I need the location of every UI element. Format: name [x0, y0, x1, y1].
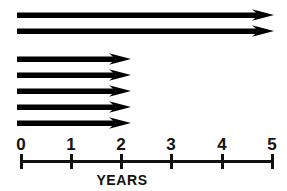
axis-tick-label-2: 2 [109, 136, 133, 153]
axis-tick-label-1: 1 [59, 136, 83, 153]
arrow-bar-4 [17, 68, 132, 82]
bar-row-2 [17, 24, 275, 38]
arrow-bar-1 [17, 8, 275, 22]
x-axis: 0 1 2 3 4 5 YEARS [0, 138, 287, 191]
bar-row-7 [17, 116, 132, 130]
arrow-bar-5 [17, 84, 132, 98]
x-axis-title: YEARS [96, 172, 147, 188]
axis-tick-label-0: 0 [9, 136, 33, 153]
axis-tick-label-4: 4 [210, 136, 234, 153]
bar-row-4 [17, 68, 132, 82]
axis-tick-5 [271, 154, 274, 169]
timeline-chart: 0 1 2 3 4 5 YEARS [0, 0, 287, 191]
axis-tick-2 [120, 154, 123, 169]
axis-line [21, 160, 273, 163]
axis-tick-3 [170, 154, 173, 169]
chart-plot-area [0, 0, 287, 140]
arrow-bar-2 [17, 24, 275, 38]
axis-tick-0 [20, 154, 23, 169]
axis-tick-label-5: 5 [260, 136, 284, 153]
bar-row-6 [17, 100, 132, 114]
axis-tick-label-3: 3 [159, 136, 183, 153]
arrow-bar-3 [17, 52, 132, 66]
bar-row-5 [17, 84, 132, 98]
axis-tick-1 [70, 154, 73, 169]
axis-tick-4 [221, 154, 224, 169]
arrow-bar-7 [17, 116, 132, 130]
bar-row-3 [17, 52, 132, 66]
bar-row-1 [17, 8, 275, 22]
arrow-bar-6 [17, 100, 132, 114]
